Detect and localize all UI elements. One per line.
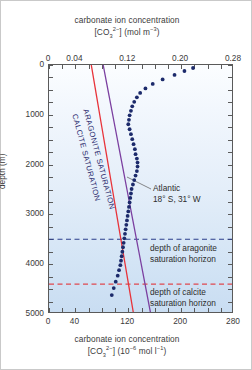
- top-axis-tick-label: 0: [46, 53, 51, 63]
- data-point: [129, 192, 133, 196]
- data-point: [126, 210, 130, 214]
- data-point: [126, 214, 130, 218]
- calcite-horizon-line2: saturation horizon: [150, 298, 216, 309]
- top-axis-tick-label: 0.04: [66, 53, 82, 63]
- data-point: [130, 137, 134, 141]
- data-point: [120, 250, 124, 254]
- bottom-caption-suffix: ): [163, 346, 166, 356]
- bottom-caption-subscript: 3: [103, 352, 106, 358]
- y-axis-tick-label: 2000: [9, 159, 44, 169]
- bottom-axis-tick-label: 200: [173, 316, 187, 326]
- data-point: [151, 82, 155, 86]
- bottom-axis-caption-line2: [CO32−] (10−6 mol l−1): [1, 346, 252, 357]
- aragonite-horizon-annotation: depth of aragonite saturation horizon: [150, 243, 217, 265]
- data-point: [133, 147, 137, 151]
- data-point: [122, 236, 126, 240]
- data-point: [136, 165, 140, 169]
- bottom-axis-tick-label: 0: [46, 316, 51, 326]
- data-point: [121, 245, 125, 249]
- data-point: [128, 127, 132, 131]
- data-point: [123, 232, 127, 236]
- calcite-horizon-annotation: depth of calcite saturation horizon: [150, 287, 216, 309]
- annotation-leader-group: [127, 177, 151, 189]
- data-point: [122, 241, 126, 245]
- data-point: [132, 142, 136, 146]
- top-caption-prefix: [CO: [94, 27, 109, 37]
- data-point: [138, 91, 142, 95]
- aragonite-horizon-line2: saturation horizon: [150, 254, 217, 265]
- data-point: [130, 187, 134, 191]
- bottom-axis-tick-label: 280: [226, 316, 240, 326]
- data-point: [129, 109, 133, 113]
- data-point: [119, 259, 123, 263]
- bottom-caption-prefix: [CO: [88, 346, 103, 356]
- data-point: [110, 293, 114, 297]
- data-point: [134, 152, 138, 156]
- y-axis-tick-label: 5000: [9, 308, 44, 318]
- atlantic-annotation-line2: 18° S, 31° W: [153, 194, 201, 205]
- plot-area: ARAGONITE SATURATION CALCITE SATURATION …: [48, 64, 233, 313]
- data-point: [114, 280, 118, 284]
- data-point: [124, 227, 128, 231]
- data-point: [127, 118, 131, 122]
- annotation-leader-line: [127, 177, 151, 189]
- top-caption-mid: ] (mol m: [119, 27, 150, 37]
- data-point: [131, 183, 135, 187]
- data-point: [124, 223, 128, 227]
- data-point: [128, 201, 132, 205]
- data-point: [120, 254, 124, 258]
- data-point: [135, 169, 139, 173]
- data-point: [183, 69, 187, 73]
- top-caption-subscript: 3: [109, 33, 112, 39]
- data-point: [128, 113, 132, 117]
- data-point: [134, 174, 138, 178]
- data-point: [144, 87, 148, 91]
- figure-container: carbonate ion concentration [CO32−] (mol…: [0, 0, 252, 370]
- y-axis-tick-label: 3000: [9, 208, 44, 218]
- top-axis-caption-line2: [CO32−] (mol m−3): [1, 27, 252, 38]
- data-point: [161, 78, 165, 82]
- y-axis-tick-label: 1000: [9, 109, 44, 119]
- atlantic-annotation-line1: Atlantic: [153, 183, 201, 194]
- data-point: [118, 263, 122, 267]
- top-caption-superscript2: −3: [150, 26, 157, 32]
- bottom-axis-tick-label: 40: [70, 316, 79, 326]
- y-axis-title: depth (m): [0, 153, 7, 189]
- bottom-axis-caption-line1: carbonate ion concentration: [1, 334, 252, 345]
- plot-overlay: [49, 65, 233, 313]
- y-axis-tick-label: 4000: [9, 258, 44, 268]
- data-point: [125, 218, 129, 222]
- bottom-axis-tick-label: 120: [120, 316, 134, 326]
- data-point: [112, 286, 116, 290]
- data-point: [126, 122, 130, 126]
- data-point: [127, 205, 131, 209]
- aragonite-horizon-line1: depth of aragonite: [150, 243, 217, 254]
- top-axis-tick-label: 0.28: [225, 53, 241, 63]
- top-axis-tick-label: 0.20: [172, 53, 188, 63]
- data-point: [135, 95, 139, 99]
- data-point: [132, 178, 136, 182]
- data-point: [191, 66, 195, 70]
- data-point: [128, 196, 132, 200]
- bottom-caption-mid: ] (10: [113, 346, 130, 356]
- data-point: [135, 157, 139, 161]
- data-point: [136, 161, 140, 165]
- y-axis-tick-label: 0: [9, 59, 44, 69]
- data-point: [130, 104, 134, 108]
- data-point: [173, 73, 177, 77]
- data-point: [129, 132, 133, 136]
- top-axis-caption-line1: carbonate ion concentration: [1, 15, 252, 26]
- data-point: [116, 274, 120, 278]
- top-axis-tick-label: 0.12: [119, 53, 135, 63]
- calcite-horizon-line1: depth of calcite: [150, 287, 216, 298]
- bottom-caption-superscript: 2−: [106, 345, 113, 351]
- top-caption-suffix: ): [157, 27, 160, 37]
- data-point: [132, 100, 136, 104]
- atlantic-annotation: Atlantic 18° S, 31° W: [153, 183, 201, 205]
- saturation-line-group: [91, 65, 150, 313]
- data-point: [117, 268, 121, 272]
- bottom-caption-mid2: mol l: [136, 346, 156, 356]
